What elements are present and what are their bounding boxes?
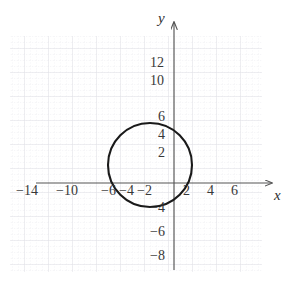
y-tick-label-12: 12 [150,56,164,70]
y-tick-label-6: 6 [158,110,165,124]
coordinate-plane [0,0,289,282]
graph-figure: −14 −10 −6 −4 −2 2 4 6 12 10 6 4 2 −4 −6… [0,0,289,282]
y-tick-label-10: 10 [150,74,164,88]
grid-major [10,36,262,272]
y-tick-label-neg6: −6 [150,225,165,239]
x-tick-label-neg4: −4 [119,184,134,198]
y-tick-label-4: 4 [158,128,165,142]
x-tick-label-2: 2 [183,184,190,198]
x-tick-label-6: 6 [231,184,238,198]
x-tick-label-4: 4 [207,184,214,198]
x-tick-label-neg14: −14 [16,184,38,198]
x-tick-label-neg10: −10 [56,184,78,198]
y-tick-label-neg8: −8 [150,249,165,263]
x-tick-label-neg2: −2 [137,184,152,198]
x-tick-label-neg6: −6 [101,184,116,198]
y-axis-label: y [158,11,165,26]
y-tick-label-2: 2 [158,146,165,160]
y-tick-label-neg4: −4 [150,201,165,215]
x-axis-label: x [274,188,281,203]
grid-layer [10,36,262,272]
